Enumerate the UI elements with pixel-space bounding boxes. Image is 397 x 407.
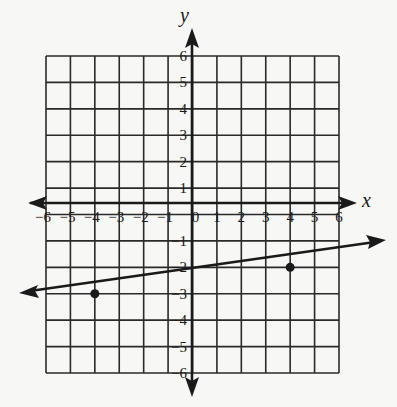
x-tick-label: 1 [213,209,221,225]
x-tick-label: 0 [192,209,200,225]
y-tick-label: −1 [171,233,187,249]
y-tick-label: 4 [180,101,188,117]
x-tick-label: 5 [311,209,319,225]
data-point [286,263,295,272]
x-tick-label: 2 [238,209,246,225]
x-tick-label: 4 [286,209,294,225]
x-tick-label: −5 [59,209,75,225]
graphed-line [19,235,386,298]
y-tick-label: 5 [180,74,188,90]
y-tick-label: −3 [171,286,187,302]
data-point [90,289,99,298]
y-tick-label: 6 [180,48,188,64]
x-tick-label: −3 [108,209,124,225]
x-tick-label: −1 [157,209,173,225]
y-tick-label: −4 [171,312,187,328]
x-tick-label: −2 [133,209,149,225]
x-tick-labels: −6−5−4−3−2−10123456 [35,209,343,225]
x-axis: x [28,189,371,211]
y-tick-label: −5 [171,339,187,355]
x-tick-label: −4 [84,209,100,225]
y-tick-label: 2 [180,154,188,170]
line-left-arrow-icon [19,285,39,298]
x-tick-label: 6 [335,209,343,225]
y-tick-label: −6 [171,365,187,381]
x-tick-label: 3 [262,209,270,225]
x-tick-label: −6 [35,209,51,225]
y-tick-label: −2 [171,259,187,275]
coordinate-plane: x y −6−5−4−3−2−10123456 654321−1−2−3−4−5… [0,0,397,407]
y-axis-label: y [178,4,189,27]
y-tick-label: 1 [180,180,188,196]
y-tick-label: 3 [180,127,188,143]
x-axis-label: x [361,189,371,211]
